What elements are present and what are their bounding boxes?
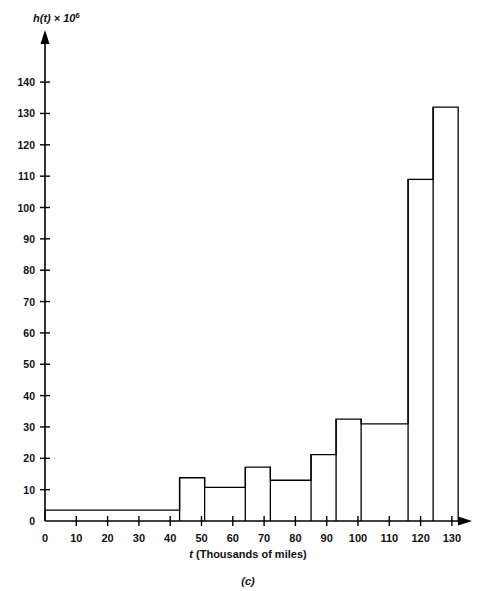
- y-tick-label: 130: [17, 107, 35, 119]
- x-tick-label: 20: [101, 532, 113, 544]
- x-axis-title: t (Thousands of miles): [189, 548, 307, 560]
- x-axis-arrow: [458, 517, 472, 526]
- y-tick-label: 70: [23, 296, 35, 308]
- y-tick-label: 120: [17, 139, 35, 151]
- y-tick-label: 110: [18, 170, 35, 182]
- y-tick-label: 90: [23, 233, 35, 245]
- x-axis-title-rest: (Thousands of miles): [193, 548, 307, 560]
- y-tick-label: 140: [17, 76, 35, 88]
- x-tick-label: 30: [133, 532, 145, 544]
- x-tick-label: 120: [411, 532, 429, 544]
- x-tick-label: 110: [380, 532, 398, 544]
- y-axis-title-exponent: 6: [75, 11, 79, 20]
- y-tick-label: 100: [17, 202, 35, 214]
- y-axis-title: h(t) × 106: [33, 11, 80, 25]
- y-axis-arrow: [41, 30, 50, 44]
- y-tick-label: 0: [29, 515, 35, 527]
- y-tick-label: 10: [23, 484, 35, 496]
- x-tick-label: 90: [321, 532, 333, 544]
- y-tick-label: 80: [23, 264, 35, 276]
- histogram-chart: h(t) × 106 01020304050607080901001101201…: [0, 0, 487, 591]
- y-tick-label: 20: [23, 452, 35, 464]
- y-tick-label: 40: [23, 390, 35, 402]
- x-tick-label: 40: [164, 532, 176, 544]
- axis-lines: [41, 30, 473, 526]
- histogram-outline: [45, 107, 458, 521]
- histogram-bars: [45, 107, 458, 521]
- x-tick-label: 70: [258, 532, 270, 544]
- panel-label: (c): [241, 575, 255, 587]
- x-tick-label: 0: [42, 532, 48, 544]
- y-tick-label: 50: [23, 358, 35, 370]
- x-tick-label: 100: [349, 532, 367, 544]
- x-tick-label: 80: [289, 532, 301, 544]
- x-tick-label: 50: [195, 532, 207, 544]
- y-tick-label: 30: [23, 421, 35, 433]
- x-tick-label: 60: [227, 532, 239, 544]
- x-tick-label: 130: [443, 532, 461, 544]
- y-axis-title-main: h(t) × 10: [33, 12, 76, 24]
- x-tick-label: 10: [70, 532, 82, 544]
- histogram-figure: h(t) × 106 01020304050607080901001101201…: [0, 0, 487, 591]
- y-tick-label: 60: [23, 327, 35, 339]
